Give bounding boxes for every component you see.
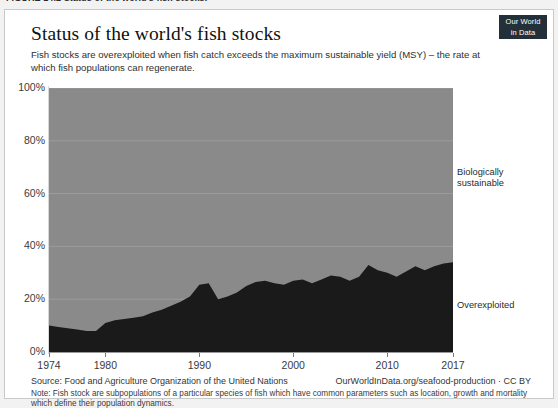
figure-caption-strip: FIGURE 14.2 Status of the world's fish s… (0, 0, 558, 8)
x-tick-mark (293, 353, 294, 357)
y-tick-label: 60% (7, 187, 45, 199)
footer-source: Source: Food and Agriculture Organizatio… (31, 376, 288, 386)
x-axis-line (49, 352, 453, 353)
figure-caption: FIGURE 14.2 Status of the world's fish s… (6, 0, 207, 3)
owid-logo-line2: in Data (499, 27, 547, 38)
y-tick-label: 20% (7, 292, 45, 304)
plot-area (49, 88, 453, 352)
y-tick-label: 0% (7, 345, 45, 357)
page-root: FIGURE 14.2 Status of the world's fish s… (0, 0, 558, 408)
x-tick-mark (49, 353, 50, 357)
footer-url[interactable]: OurWorldInData.org/seafood-production · … (336, 376, 531, 386)
chart-title: Status of the world's fish stocks (31, 23, 281, 45)
x-tick-label: 2010 (376, 359, 399, 371)
footer-note: Note: Fish stock are subpopulations of a… (31, 389, 539, 408)
x-tick-label: 2000 (282, 359, 305, 371)
y-tick-label: 80% (7, 134, 45, 146)
overexploited-area-chart (49, 88, 453, 352)
chart-card: Our World in Data Status of the world's … (4, 9, 554, 399)
chart-subtitle: Fish stocks are overexploited when fish … (31, 49, 483, 74)
owid-logo[interactable]: Our World in Data (499, 15, 547, 39)
x-tick-label: 1980 (94, 359, 117, 371)
x-tick-mark (199, 353, 200, 357)
x-tick-label: 1974 (37, 359, 60, 371)
x-tick-label: 2017 (441, 359, 464, 371)
y-axis-ticks: 0%20%40%60%80%100% (5, 10, 45, 408)
x-tick-mark (105, 353, 106, 357)
y-tick-label: 40% (7, 239, 45, 251)
x-tick-mark (453, 353, 454, 357)
overexploited-area-path (49, 262, 453, 352)
series-label-sustainable: Biologically sustainable (457, 167, 504, 189)
gridlines-group (49, 88, 453, 299)
x-tick-label: 1990 (188, 359, 211, 371)
x-tick-mark (387, 353, 388, 357)
y-tick-label: 100% (7, 81, 45, 93)
series-label-overexploited: Overexploited (457, 300, 514, 311)
owid-logo-line1: Our World (499, 16, 547, 27)
